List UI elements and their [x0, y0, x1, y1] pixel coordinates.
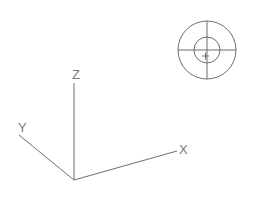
y-axis-line	[19, 135, 74, 180]
compass-cursor-icon	[202, 53, 209, 60]
x-axis-label: X	[179, 142, 188, 157]
y-axis-label: Y	[18, 120, 27, 135]
tripod-viewport[interactable]: Z X Y	[0, 0, 258, 197]
axis-tripod[interactable]	[19, 83, 177, 180]
z-axis-label: Z	[72, 67, 80, 82]
compass[interactable]	[178, 21, 236, 79]
x-axis-line	[74, 151, 177, 180]
